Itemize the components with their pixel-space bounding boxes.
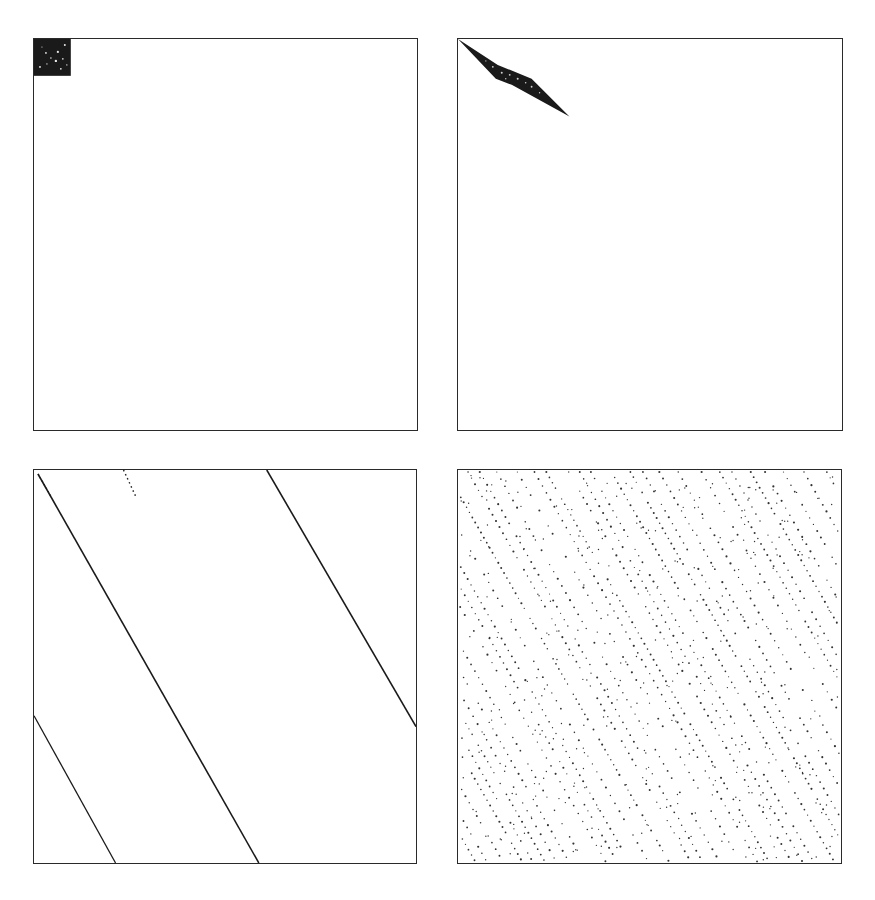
dense-lens-shape [458, 39, 569, 117]
diagonal-line [34, 716, 116, 863]
diagonal-line [267, 470, 416, 727]
panel-top-left: Dense cluster filling a small square in … [33, 38, 418, 431]
diagonal-line [38, 474, 259, 863]
dotted-streaks [459, 471, 839, 862]
plot-area [458, 39, 842, 430]
dotted-segment [124, 470, 136, 496]
plot-area [458, 470, 841, 863]
panel-bottom-left: Parallel diagonal lines (wrapping at bou… [33, 469, 417, 864]
panel-bottom-right: Uniformly spread dotted points arranged … [457, 469, 842, 864]
plot-area [34, 39, 417, 430]
plot-area [34, 470, 416, 863]
panel-top-right: Dense thin diamond/lens shape from the t… [457, 38, 843, 431]
